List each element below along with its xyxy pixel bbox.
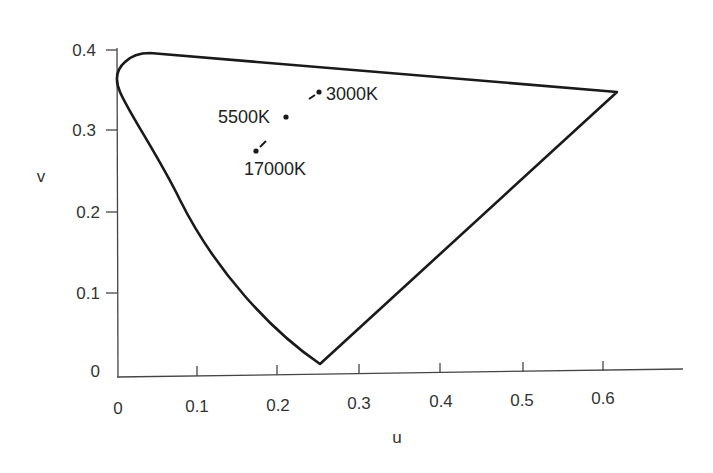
label-17000k: 17000K [244, 159, 306, 179]
x-axis [117, 369, 683, 377]
y-tick-label: 0 [91, 362, 100, 381]
y-axis-label: v [37, 167, 46, 186]
chromaticity-diagram: 0.4 0.3 0.2 0.1 0 0 0.1 0.2 0.3 0.4 0.5 … [0, 0, 713, 473]
point-17000k: 17000K [244, 141, 306, 179]
x-tick-label: 0.3 [347, 394, 371, 413]
y-axis [117, 48, 118, 377]
x-tick-label: 0.4 [429, 392, 453, 411]
x-tick-label: 0.2 [266, 396, 290, 415]
y-tick-label: 0.1 [76, 284, 100, 303]
point-3000k: 3000K [309, 84, 378, 104]
y-tick-label: 0.4 [72, 41, 96, 60]
x-tick-label: 0.5 [510, 391, 534, 410]
point-5500k: 5500K [218, 107, 289, 127]
y-tick-label: 0.3 [72, 121, 96, 140]
label-3000k: 3000K [326, 84, 378, 104]
label-5500k: 5500K [218, 107, 270, 127]
y-tick-label: 0.2 [76, 203, 100, 222]
x-ticks [197, 361, 603, 376]
x-tick-label: 0.6 [591, 389, 615, 408]
x-axis-label: u [392, 428, 401, 447]
x-tick-label: 0 [113, 399, 122, 418]
x-tick-label: 0.1 [185, 397, 209, 416]
y-ticks [106, 50, 117, 293]
